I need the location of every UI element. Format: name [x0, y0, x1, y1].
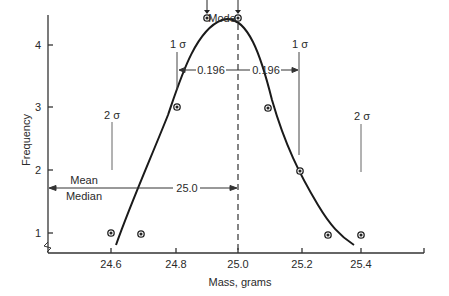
x-axis-title: Mass, grams [209, 276, 272, 288]
data-point [138, 231, 144, 237]
data-point [265, 105, 271, 111]
y-axis-title: Frequency [20, 114, 32, 166]
data-point [174, 104, 180, 110]
y-tick-2: 2 [35, 164, 41, 176]
x-tick-25-4: 25.4 [350, 258, 371, 270]
y-tick-1: 1 [35, 227, 41, 239]
two-sigma-right-label: 2 σ [354, 110, 370, 122]
y-tick-4: 4 [35, 39, 41, 51]
sigma-right-value: 0.196 [252, 64, 280, 76]
data-point [108, 230, 114, 236]
mean-label: Mean [70, 174, 98, 186]
frequency-chart: 4 3 2 1 24.6 24.8 25.0 25.2 25.4 Mass, g… [0, 0, 449, 296]
mode-label: Mode [208, 12, 236, 24]
axes [44, 15, 424, 253]
data-point [358, 232, 364, 238]
two-sigma-left-label: 2 σ [104, 109, 120, 121]
data-point [297, 168, 303, 174]
y-tick-3: 3 [35, 101, 41, 113]
sigma-left-value: 0.196 [197, 64, 225, 76]
x-tick-25-2: 25.2 [291, 258, 312, 270]
fitted-curve [116, 19, 354, 245]
median-label: Median [66, 190, 102, 202]
data-point [325, 232, 331, 238]
one-sigma-right-label: 1 σ [292, 38, 308, 50]
x-tick-24-8: 24.8 [165, 258, 186, 270]
mode-arrows [207, 0, 238, 12]
one-sigma-left-label: 1 σ [170, 38, 186, 50]
mean-value: 25.0 [176, 182, 197, 194]
x-tick-24-6: 24.6 [100, 258, 121, 270]
data-points [108, 15, 364, 238]
x-tick-25-0: 25.0 [227, 258, 248, 270]
